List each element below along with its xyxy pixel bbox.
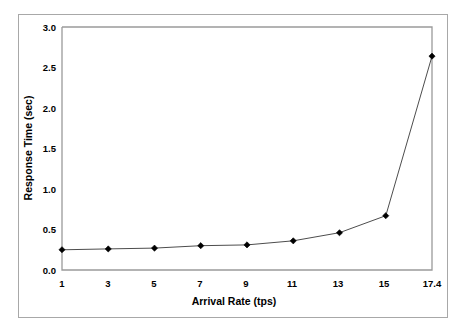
- x-tick-label-0: 1: [59, 278, 65, 289]
- data-point-marker: [151, 245, 157, 251]
- y-tick-labels: 0.0 0.5 1.0 1.5 2.0 2.5 3.0: [43, 22, 57, 276]
- y-tick-label-6: 3.0: [43, 22, 56, 33]
- x-tick-label-5: 11: [287, 278, 298, 289]
- series-markers: [59, 53, 435, 253]
- plot-axes: [62, 27, 432, 270]
- figure-canvas: 0.0 0.5 1.0 1.5 2.0 2.5 3.0 1 3 5 7 9 11…: [0, 0, 465, 335]
- data-series-response-time: [59, 53, 435, 253]
- x-tick-label-6: 13: [333, 278, 344, 289]
- data-point-marker: [244, 242, 250, 248]
- data-point-marker: [383, 213, 389, 219]
- x-tick-label-7: 15: [379, 278, 390, 289]
- y-tick-label-5: 2.5: [43, 62, 57, 73]
- y-tick-label-1: 0.5: [43, 224, 57, 235]
- plot-border: [62, 27, 432, 270]
- x-tick-label-1: 3: [105, 278, 110, 289]
- x-tick-label-8: 17.4: [423, 278, 442, 289]
- data-point-marker: [198, 243, 204, 249]
- data-point-marker: [59, 247, 65, 253]
- y-tick-label-4: 2.0: [43, 103, 56, 114]
- y-tick-label-0: 0.0: [43, 265, 56, 276]
- y-tick-label-3: 1.5: [43, 143, 57, 154]
- y-tick-label-2: 1.0: [43, 184, 56, 195]
- data-point-marker: [290, 238, 296, 244]
- data-point-marker: [429, 53, 435, 59]
- data-point-marker: [336, 230, 342, 236]
- x-tick-label-4: 9: [243, 278, 248, 289]
- data-point-marker: [105, 246, 111, 252]
- x-tick-label-3: 7: [197, 278, 202, 289]
- x-tick-labels: 1 3 5 7 9 11 13 15 17.4: [59, 278, 442, 289]
- y-axis-title: Response Time (sec): [22, 96, 34, 201]
- x-tick-label-2: 5: [151, 278, 157, 289]
- series-line: [62, 56, 432, 250]
- x-axis-title: Arrival Rate (tps): [192, 295, 277, 307]
- response-time-line-chart: 0.0 0.5 1.0 1.5 2.0 2.5 3.0 1 3 5 7 9 11…: [0, 0, 465, 335]
